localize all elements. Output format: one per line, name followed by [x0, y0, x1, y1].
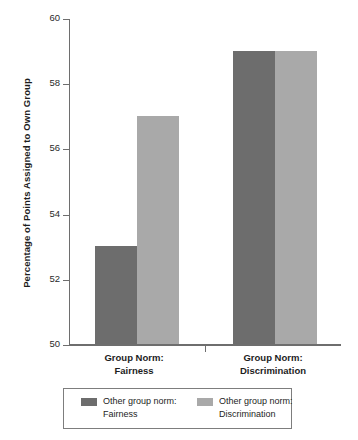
legend-swatch-icon-0: [81, 398, 97, 406]
y-tick-0: 50: [63, 345, 69, 346]
y-axis-line: [69, 19, 70, 345]
bar-fairness-other-discrimination: [137, 116, 179, 344]
legend-swatch-icon-1: [197, 398, 213, 406]
x-axis-category-label-1-line-0: Group Norm:: [193, 352, 353, 365]
legend-label-1-line-0: Other group norm:: [219, 396, 293, 406]
legend-item-0: Other group norm: Fairness: [81, 395, 177, 421]
y-tick-label-3: 56: [49, 142, 60, 153]
y-tick-2: 54: [63, 215, 69, 216]
bar-chart-figure: Percentage of Points Assigned to Own Gro…: [0, 0, 358, 440]
y-axis-title: Percentage of Points Assigned to Own Gro…: [19, 18, 35, 348]
bar-fairness-other-fairness: [95, 246, 137, 344]
legend-item-1: Other group norm: Discrimination: [197, 395, 293, 421]
legend-label-1: Other group norm: Discrimination: [219, 395, 293, 421]
y-tick-label-5: 60: [49, 12, 60, 23]
legend-label-0-line-0: Other group norm:: [103, 396, 177, 406]
legend-label-0-line-1: Fairness: [103, 409, 138, 419]
y-tick-label-0: 50: [49, 338, 60, 349]
y-tick-label-1: 52: [49, 273, 60, 284]
x-axis-category-label-1-line-1: Discrimination: [193, 365, 353, 378]
x-axis-category-label-0-line-0: Group Norm:: [54, 352, 214, 365]
x-axis-category-label-1: Group Norm: Discrimination: [193, 352, 353, 377]
x-axis-category-label-0: Group Norm: Fairness: [54, 352, 214, 377]
legend-label-0: Other group norm: Fairness: [103, 395, 177, 421]
bar-discrimination-other-discrimination: [275, 51, 317, 344]
bar-discrimination-other-fairness: [233, 51, 275, 344]
y-tick-3: 56: [63, 149, 69, 150]
y-tick-5: 60: [63, 19, 69, 20]
y-tick-1: 52: [63, 280, 69, 281]
legend: Other group norm: Fairness Other group n…: [63, 388, 292, 429]
legend-label-1-line-1: Discrimination: [219, 409, 276, 419]
y-tick-4: 58: [63, 84, 69, 85]
plot-area: 50 52 54 56 58 60: [69, 19, 341, 345]
y-tick-label-2: 54: [49, 208, 60, 219]
y-tick-label-4: 58: [49, 77, 60, 88]
x-axis-category-label-0-line-1: Fairness: [54, 365, 214, 378]
